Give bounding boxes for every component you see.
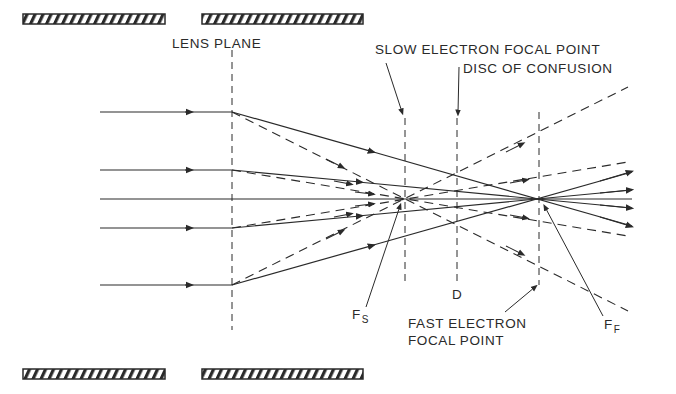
bottom-left-aperture-bar	[23, 369, 165, 379]
chromatic-aberration-diagram	[0, 0, 676, 394]
disc-of-confusion-label: DISC OF CONFUSION	[463, 62, 613, 76]
top-right-aperture-bar	[202, 14, 363, 24]
lens-plane-label: LENS PLANE	[172, 37, 261, 51]
fs-sub: S	[362, 314, 369, 325]
leader-arrows	[366, 63, 603, 316]
fast-focal-point-label-line1: FAST ELECTRON	[408, 317, 527, 331]
slow-focal-point-label: SLOW ELECTRON FOCAL POINT	[375, 43, 600, 57]
slow-focus-fs-label: FS	[352, 308, 369, 322]
bottom-right-aperture-bar	[202, 369, 363, 379]
disc-d-label: D	[452, 288, 462, 302]
fast-focal-point-label-line2: FOCAL POINT	[408, 334, 504, 348]
ff-main: F	[604, 317, 613, 332]
ff-sub: F	[614, 324, 621, 335]
fs-main: F	[352, 307, 361, 322]
fast-focus-ff-label: FF	[604, 318, 621, 332]
top-left-aperture-bar	[23, 14, 165, 24]
